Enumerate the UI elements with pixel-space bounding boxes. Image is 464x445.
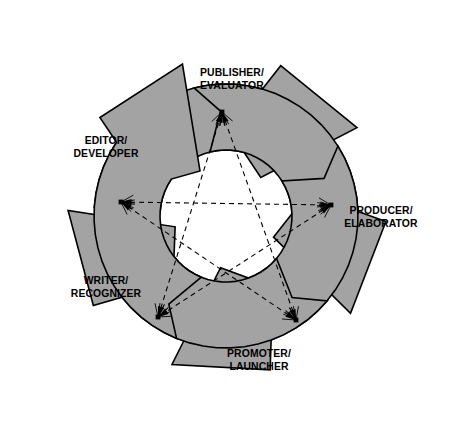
cycle-diagram: PUBLISHER/EVALUATORPRODUCER/ELABORATORPR… bbox=[0, 0, 464, 445]
label-line2-promoter-launcher: LAUNCHER bbox=[229, 361, 288, 372]
arrow-shapes-group bbox=[68, 64, 386, 370]
label-publisher-evaluator: PUBLISHER/EVALUATOR bbox=[200, 67, 264, 91]
vertex-dot-publisher-evaluator bbox=[220, 110, 225, 115]
label-line1-editor-developer: EDITOR/ bbox=[85, 135, 128, 146]
label-line2-publisher-evaluator: EVALUATOR bbox=[200, 80, 264, 91]
label-line1-writer-recognizer: WRITER/ bbox=[84, 275, 129, 286]
label-line2-writer-recognizer: RECOGNIZER bbox=[71, 288, 142, 299]
vertex-dot-writer-recognizer bbox=[156, 315, 161, 320]
vertex-dot-producer-elaborator bbox=[329, 203, 334, 208]
label-line2-producer-elaborator: ELABORATOR bbox=[344, 218, 418, 229]
vertex-dot-promoter-launcher bbox=[294, 318, 299, 323]
label-line2-editor-developer: DEVELOPER bbox=[74, 148, 139, 159]
vertex-dot-editor-developer bbox=[119, 200, 124, 205]
label-line1-promoter-launcher: PROMOTER/ bbox=[227, 348, 291, 359]
label-line1-producer-elaborator: PRODUCER/ bbox=[349, 205, 412, 216]
label-line1-publisher-evaluator: PUBLISHER/ bbox=[200, 67, 264, 78]
diagram-canvas: PUBLISHER/EVALUATORPRODUCER/ELABORATORPR… bbox=[0, 0, 464, 445]
